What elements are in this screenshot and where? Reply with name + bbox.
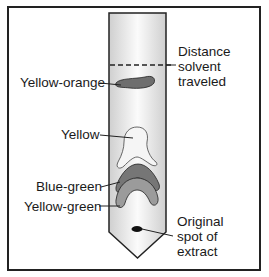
label-yellow-orange: Yellow-orange	[20, 75, 105, 90]
label-solvent-front: Distance solvent traveled	[178, 44, 234, 89]
label-blue-green: Blue-green	[36, 179, 102, 194]
label-yellow: Yellow	[61, 127, 100, 142]
origin-spot	[132, 226, 143, 232]
label-origin: Original spot of extract	[177, 214, 227, 259]
label-yellow-green: Yellow-green	[24, 199, 102, 214]
chromatography-diagram: Distance solvent traveled Yellow-orange …	[0, 0, 269, 277]
